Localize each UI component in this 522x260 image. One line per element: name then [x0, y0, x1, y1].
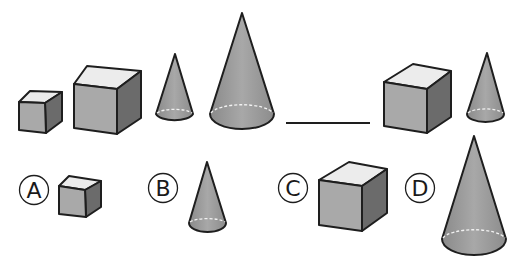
- sequence-small-cone-7: [467, 53, 504, 122]
- sequence-small-cube-1: [19, 91, 62, 133]
- option-b[interactable]: B: [149, 162, 227, 232]
- option-c-label: C: [285, 176, 300, 201]
- sequence-large-cone-4: [210, 13, 274, 129]
- option-a-small-cube: [59, 176, 101, 217]
- option-c-large-cube: [319, 162, 387, 231]
- option-d-label: D: [412, 176, 429, 201]
- sequence-large-cube-6: [384, 64, 451, 133]
- option-d-large-cone: [442, 136, 506, 255]
- puzzle-figure: A B C D: [0, 0, 522, 260]
- option-d[interactable]: D: [406, 136, 507, 255]
- sequence-large-cube-2: [74, 66, 141, 134]
- sequence-small-cone-3: [156, 54, 193, 120]
- option-b-label: B: [155, 176, 170, 201]
- option-a[interactable]: A: [20, 176, 102, 218]
- option-b-small-cone: [189, 162, 226, 232]
- option-a-label: A: [26, 178, 41, 203]
- option-c[interactable]: C: [279, 162, 388, 231]
